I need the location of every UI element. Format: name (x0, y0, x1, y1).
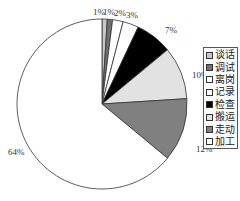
legend-label: 调试 (215, 62, 235, 74)
legend-swatch (206, 64, 213, 71)
legend-item-walking: 走动 (206, 123, 237, 135)
legend-item-recording: 记录 (206, 86, 237, 98)
pie-slices (17, 19, 187, 189)
legend-label: 搬运 (215, 111, 235, 123)
legend-label: 记录 (215, 86, 235, 98)
legend-label: 离岗 (215, 74, 235, 86)
slice-percent-label: 64% (8, 147, 25, 157)
legend-swatch (206, 76, 213, 83)
legend-swatch (206, 101, 213, 108)
legend-item-debugging: 调试 (206, 61, 237, 73)
legend-swatch (206, 89, 213, 96)
legend-swatch (206, 52, 213, 59)
legend-swatch (206, 126, 213, 133)
legend: 谈话 调试 离岗 记录 检查 搬运 走动 加工 (203, 47, 238, 149)
legend-item-inspection: 检查 (206, 99, 237, 111)
legend-item-carrying: 搬运 (206, 111, 237, 123)
legend-item-away: 离岗 (206, 74, 237, 86)
legend-label: 加工 (215, 136, 235, 148)
slice-percent-label: 7% (165, 25, 178, 35)
legend-swatch (206, 138, 213, 145)
legend-item-talking: 谈话 (206, 49, 237, 61)
legend-label: 谈话 (215, 49, 235, 61)
legend-label: 走动 (215, 124, 235, 136)
legend-label: 检查 (215, 99, 235, 111)
legend-swatch (206, 114, 213, 121)
slice-percent-label: 3% (126, 10, 139, 20)
slice-percent-label: 2% (114, 8, 127, 18)
legend-item-processing: 加工 (206, 136, 237, 148)
